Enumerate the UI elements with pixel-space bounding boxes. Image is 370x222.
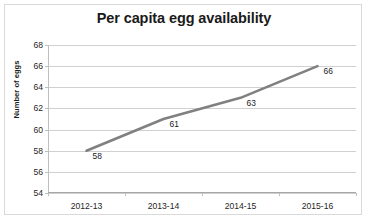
plot-area: 5456586062646668 2012-132013-142014-1520… [48, 45, 356, 193]
y-tick-label: 68 [33, 40, 43, 50]
y-tick-label: 54 [33, 188, 43, 198]
x-tick-label: 2015-16 [302, 201, 334, 211]
x-tick-mark [48, 193, 49, 196]
y-tick-label: 64 [33, 82, 43, 92]
y-axis-title: Number of eggs [12, 50, 21, 130]
data-label: 58 [93, 151, 102, 161]
data-line [87, 66, 318, 151]
y-tick-label: 62 [33, 103, 43, 113]
x-tick-label: 2014-15 [225, 201, 257, 211]
x-tick-mark [202, 193, 203, 196]
chart-title: Per capita egg availability [5, 10, 363, 26]
y-tick-label: 60 [33, 125, 43, 135]
x-tick-mark [279, 193, 280, 196]
x-tick-label: 2013-14 [148, 201, 180, 211]
y-tick-label: 56 [33, 167, 43, 177]
data-label: 61 [170, 119, 179, 129]
x-tick-label: 2012-13 [71, 201, 103, 211]
chart-frame: Per capita egg availability Number of eg… [4, 4, 362, 215]
data-label: 66 [324, 66, 333, 76]
x-tick-mark [125, 193, 126, 196]
data-label: 63 [247, 98, 256, 108]
y-tick-label: 58 [33, 146, 43, 156]
line-series-svg [48, 45, 356, 193]
y-tick-label: 66 [33, 61, 43, 71]
x-tick-mark [356, 193, 357, 196]
